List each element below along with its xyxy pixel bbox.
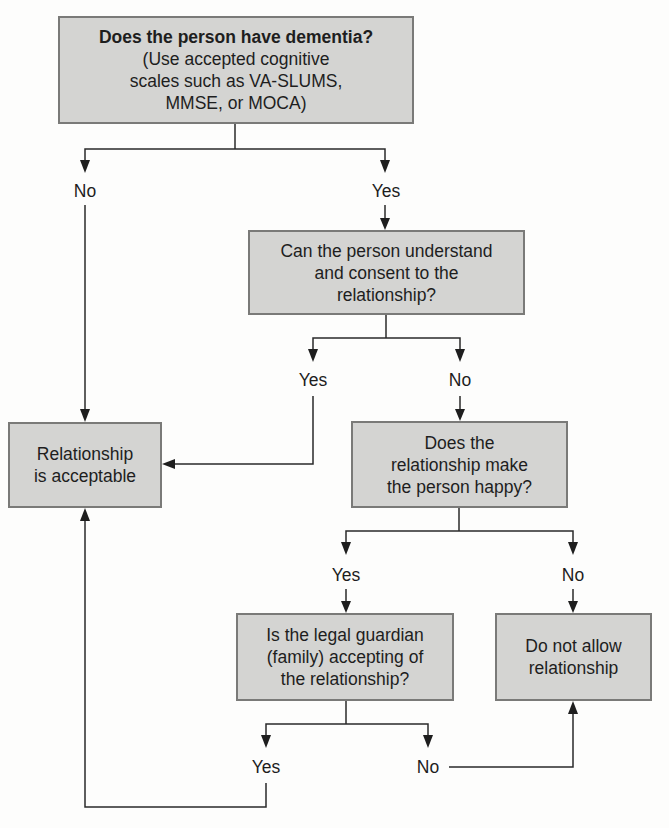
label-dementia-no: No bbox=[74, 181, 96, 201]
arrow-head-icon bbox=[380, 218, 390, 230]
label-happy-no: No bbox=[562, 565, 584, 585]
happy-question-text: the person happy? bbox=[387, 476, 532, 498]
label-consent-no: No bbox=[449, 370, 471, 390]
consent-question-text: Can the person understand bbox=[280, 240, 492, 262]
label-dementia-yes: Yes bbox=[372, 181, 401, 201]
happy-question-text: Does the bbox=[424, 432, 494, 454]
arrow-head-icon bbox=[455, 409, 465, 421]
arrow-head-icon bbox=[568, 601, 578, 613]
happy-question-text: relationship make bbox=[391, 454, 528, 476]
guardian-question-text: the relationship? bbox=[281, 668, 409, 690]
arrow-head-icon bbox=[341, 542, 351, 555]
node-consent-question: Can the person understand and consent to… bbox=[248, 230, 525, 315]
guardian-question-text: (family) accepting of bbox=[267, 646, 424, 668]
consent-question-text: relationship? bbox=[337, 284, 436, 306]
arrow-head-icon bbox=[568, 701, 578, 714]
node-relationship-acceptable: Relationship is acceptable bbox=[8, 422, 162, 508]
arrow-head-icon bbox=[80, 409, 90, 422]
dementia-question-title: Does the person have dementia? bbox=[99, 26, 373, 48]
node-dementia-question: Does the person have dementia? (Use acce… bbox=[58, 16, 414, 124]
consent-question-text: and consent to the bbox=[315, 262, 459, 284]
arrow-head-icon bbox=[341, 601, 351, 613]
arrow-head-icon bbox=[261, 735, 271, 748]
node-happy-question: Does the relationship make the person ha… bbox=[351, 421, 568, 508]
acceptable-text: Relationship bbox=[37, 443, 133, 465]
dementia-question-note: scales such as VA-SLUMS, bbox=[130, 70, 343, 92]
label-guardian-yes: Yes bbox=[252, 757, 281, 777]
arrow-head-icon bbox=[308, 349, 318, 362]
arrow-head-icon bbox=[80, 508, 90, 521]
node-guardian-question: Is the legal guardian (family) accepting… bbox=[236, 613, 454, 701]
label-guardian-no: No bbox=[417, 757, 439, 777]
arrow-head-icon bbox=[423, 735, 433, 748]
dementia-question-note: (Use accepted cognitive bbox=[143, 48, 330, 70]
acceptable-text: is acceptable bbox=[34, 465, 136, 487]
arrow-head-icon bbox=[455, 349, 465, 362]
arrow-head-icon bbox=[380, 160, 390, 173]
guardian-question-text: Is the legal guardian bbox=[266, 624, 424, 646]
arrow-head-icon bbox=[568, 542, 578, 555]
label-happy-yes: Yes bbox=[332, 565, 361, 585]
arrow-head-icon bbox=[162, 459, 175, 469]
flowchart: Does the person have dementia? (Use acce… bbox=[0, 0, 669, 828]
connector-lines bbox=[0, 0, 669, 828]
disallow-text: Do not allow bbox=[525, 635, 621, 657]
arrow-head-icon bbox=[80, 160, 90, 173]
disallow-text: relationship bbox=[529, 657, 619, 679]
label-consent-yes: Yes bbox=[299, 370, 328, 390]
node-do-not-allow: Do not allow relationship bbox=[495, 613, 652, 701]
dementia-question-note: MMSE, or MOCA) bbox=[166, 92, 307, 114]
